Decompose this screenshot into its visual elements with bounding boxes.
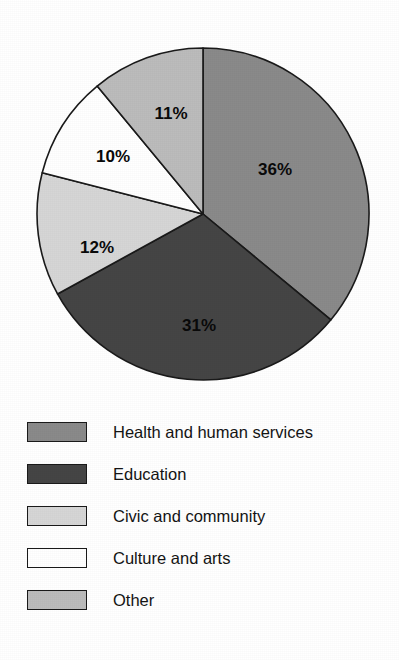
legend-item[interactable]: Education [27, 462, 186, 486]
pie-slice-data-label: 36% [258, 160, 292, 179]
legend-item-label: Education [113, 466, 186, 483]
legend-color-swatch [27, 548, 87, 568]
legend-item[interactable]: Civic and community [27, 504, 265, 528]
legend-item-label: Civic and community [113, 508, 265, 525]
pie-chart-figure: 36%31%12%10%11% Health and human service… [0, 0, 399, 660]
pie-slice-data-label: 10% [96, 147, 130, 166]
pie-slice-data-label: 11% [154, 104, 187, 123]
pie-slice-data-label: 12% [80, 238, 114, 257]
pie-slice-data-label: 31% [182, 316, 216, 335]
legend-color-swatch [27, 590, 87, 610]
legend-color-swatch [27, 506, 87, 526]
legend-item-label: Other [113, 592, 154, 609]
pie-chart-svg: 36%31%12%10%11% [0, 0, 399, 410]
legend-color-swatch [27, 464, 87, 484]
chart-legend: Health and human servicesEducationCivic … [0, 412, 399, 652]
legend-item[interactable]: Health and human services [27, 420, 313, 444]
legend-item[interactable]: Culture and arts [27, 546, 230, 570]
legend-item[interactable]: Other [27, 588, 154, 612]
legend-item-label: Culture and arts [113, 550, 230, 567]
pie-chart-plot-area: 36%31%12%10%11% [0, 0, 399, 410]
legend-item-label: Health and human services [113, 424, 313, 441]
legend-color-swatch [27, 422, 87, 442]
